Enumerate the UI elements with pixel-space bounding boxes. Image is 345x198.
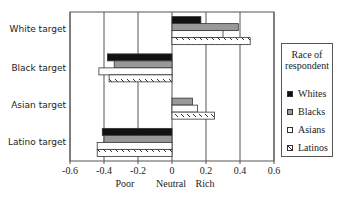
x-tick: -0.2 [123, 165, 153, 176]
legend-item-blacks: Blacks [287, 106, 325, 117]
bar-latinos-1 [109, 75, 172, 82]
asians-swatch-icon [287, 127, 293, 133]
x-tick: -0.6 [55, 165, 85, 176]
x-tick: -0.4 [89, 165, 119, 176]
axis-label-poor: Poor [100, 178, 150, 189]
bar-whites-3 [102, 128, 172, 135]
legend-item-whites: Whites [287, 88, 326, 99]
bar-asians-0 [172, 31, 223, 38]
category-label-white-target: White target [0, 24, 66, 34]
x-tick: 0 [157, 165, 187, 176]
legend: Race of respondent Whites Blacks Asians … [281, 43, 333, 157]
bar-latinos-2 [172, 112, 215, 119]
whites-swatch-icon [287, 91, 293, 97]
bar-asians-1 [99, 68, 172, 75]
x-tick: 0.4 [225, 165, 255, 176]
latinos-swatch-icon [287, 145, 293, 151]
bar-latinos-0 [172, 38, 250, 45]
x-tick: 0.6 [259, 165, 289, 176]
legend-title: Race of respondent [282, 49, 332, 71]
blacks-swatch-icon [287, 109, 293, 115]
bar-chart: White target Black target Asian target L… [0, 0, 345, 198]
bar-blacks-1 [114, 61, 172, 68]
bar-whites-1 [107, 54, 172, 61]
bar-latinos-3 [97, 149, 172, 156]
legend-item-latinos: Latinos [287, 142, 328, 153]
x-tick: 0.2 [191, 165, 221, 176]
axis-label-rich: Rich [180, 178, 230, 189]
bar-asians-2 [172, 105, 198, 112]
category-label-asian-target: Asian target [0, 100, 66, 110]
category-label-latino-target: Latino target [0, 137, 66, 147]
bar-blacks-3 [104, 135, 172, 142]
category-label-black-target: Black target [0, 63, 66, 73]
bar-asians-3 [97, 142, 172, 149]
bar-blacks-0 [172, 24, 238, 31]
bar-whites-0 [172, 17, 201, 24]
legend-item-asians: Asians [287, 124, 325, 135]
bar-blacks-2 [172, 98, 192, 105]
